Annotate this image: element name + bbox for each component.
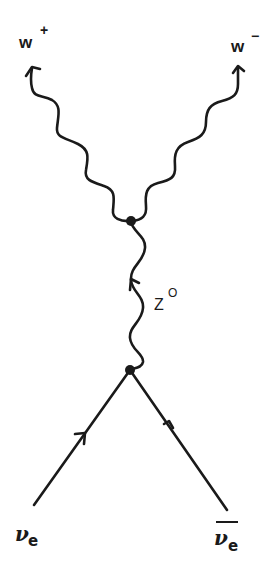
nu-e-subscript: e	[28, 532, 38, 550]
feynman-diagram: w + w − Z O ν e ν e	[0, 0, 275, 569]
bottom-vertex	[125, 365, 135, 375]
nu-e-bar-label: ν	[214, 526, 228, 550]
z-label: Z	[154, 296, 164, 314]
nu-e-bar-subscript: e	[228, 537, 238, 555]
w-plus-label: w	[19, 33, 32, 53]
nu-e-fermion-line	[34, 370, 130, 505]
nu-e-label: ν	[15, 522, 29, 546]
w-plus-arrow-icon	[26, 67, 40, 76]
w-plus-propagator	[31, 68, 131, 221]
nu-e-bar-fermion-line	[130, 370, 227, 510]
w-minus-label: w	[231, 37, 244, 57]
w-plus-superscript: +	[40, 22, 48, 38]
w-minus-propagator	[132, 67, 238, 221]
antiparticle-overbar	[216, 521, 238, 523]
z-propagator	[130, 222, 145, 370]
z-superscript: O	[168, 286, 177, 300]
diagram-lines	[0, 0, 275, 569]
w-minus-superscript: −	[251, 28, 259, 44]
top-vertex	[126, 216, 136, 226]
